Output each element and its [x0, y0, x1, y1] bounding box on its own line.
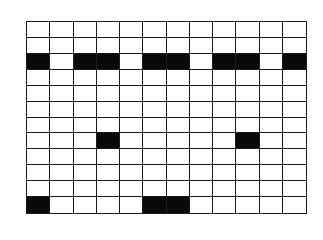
- grid-cell: [236, 165, 259, 181]
- grid-cell: [167, 149, 190, 165]
- grid-cell: [190, 22, 213, 38]
- grid-cell: [213, 165, 236, 181]
- grid-cell: [190, 70, 213, 86]
- grid-cell: [260, 86, 283, 102]
- grid-cell: [167, 181, 190, 197]
- grid-cell: [143, 102, 166, 118]
- grid-cell: [143, 118, 166, 134]
- grid-cell: [120, 70, 143, 86]
- grid-cell: [50, 165, 73, 181]
- grid-cell: [260, 38, 283, 54]
- grid-cell: [167, 22, 190, 38]
- grid-cell: [236, 22, 259, 38]
- grid-cell: [167, 165, 190, 181]
- grid-cell-filled: [27, 54, 50, 70]
- grid-cell: [50, 118, 73, 134]
- grid-cell: [50, 133, 73, 149]
- grid-cell: [213, 102, 236, 118]
- grid-cell: [283, 165, 306, 181]
- grid-cell: [213, 70, 236, 86]
- grid-cell: [283, 181, 306, 197]
- grid-cell: [260, 70, 283, 86]
- grid-cell: [120, 22, 143, 38]
- grid-cell: [27, 133, 50, 149]
- grid-cell: [120, 149, 143, 165]
- grid-cell: [97, 70, 120, 86]
- grid-cell: [120, 38, 143, 54]
- grid-cell: [190, 197, 213, 213]
- grid-cell: [27, 181, 50, 197]
- grid-cell: [143, 181, 166, 197]
- grid-cell: [97, 149, 120, 165]
- grid-cell: [50, 197, 73, 213]
- grid-cell: [97, 86, 120, 102]
- grid-cell: [143, 165, 166, 181]
- grid-cell: [283, 70, 306, 86]
- grid-cell: [236, 197, 259, 213]
- grid-cell: [27, 149, 50, 165]
- grid-cell: [213, 133, 236, 149]
- grid-cell: [74, 165, 97, 181]
- grid-cell: [213, 118, 236, 134]
- grid-cell: [143, 86, 166, 102]
- grid-cell: [74, 197, 97, 213]
- grid-cell: [236, 102, 259, 118]
- grid-cell: [120, 54, 143, 70]
- grid-cell: [190, 54, 213, 70]
- grid-cell: [27, 102, 50, 118]
- grid-cell: [50, 70, 73, 86]
- grid-cell: [27, 38, 50, 54]
- grid-cell: [213, 181, 236, 197]
- grid-cell: [167, 38, 190, 54]
- grid-cell: [143, 38, 166, 54]
- grid-cell: [50, 102, 73, 118]
- grid-cell: [260, 197, 283, 213]
- grid-cell-filled: [74, 54, 97, 70]
- grid-cell: [167, 118, 190, 134]
- grid-cell: [260, 149, 283, 165]
- grid-cell: [50, 22, 73, 38]
- grid-cell: [190, 118, 213, 134]
- grid-cell: [97, 118, 120, 134]
- grid-cell: [50, 86, 73, 102]
- grid-cell: [74, 86, 97, 102]
- grid-cell: [213, 22, 236, 38]
- grid-cell-filled: [143, 197, 166, 213]
- grid-cell: [50, 149, 73, 165]
- grid-cell: [283, 197, 306, 213]
- grid-cell: [260, 118, 283, 134]
- grid-cell: [27, 86, 50, 102]
- grid-cell: [74, 133, 97, 149]
- grid-cell: [120, 181, 143, 197]
- grid-cell: [190, 102, 213, 118]
- grid-cell: [120, 165, 143, 181]
- grid-cell: [283, 22, 306, 38]
- grid-cell-filled: [143, 54, 166, 70]
- grid-cell: [213, 149, 236, 165]
- grid-cell: [27, 22, 50, 38]
- grid-cell-filled: [97, 54, 120, 70]
- grid-cell: [167, 133, 190, 149]
- grid-cell: [236, 149, 259, 165]
- grid-cell-filled: [167, 197, 190, 213]
- grid-cell: [97, 38, 120, 54]
- grid-cell: [283, 86, 306, 102]
- grid-cell: [120, 197, 143, 213]
- grid-cell-filled: [283, 54, 306, 70]
- grid-cell: [74, 38, 97, 54]
- grid-cell: [283, 149, 306, 165]
- grid-cell: [50, 54, 73, 70]
- grid-cell: [260, 165, 283, 181]
- grid-cell: [97, 181, 120, 197]
- grid-cell: [97, 165, 120, 181]
- grid-cell: [97, 197, 120, 213]
- grid-cell: [97, 102, 120, 118]
- grid-cell: [50, 181, 73, 197]
- grid-cell: [283, 38, 306, 54]
- grid-cell: [120, 118, 143, 134]
- grid-cell: [74, 118, 97, 134]
- grid-cell: [50, 38, 73, 54]
- grid-cell: [120, 102, 143, 118]
- grid-cell: [120, 86, 143, 102]
- grid-cell: [74, 181, 97, 197]
